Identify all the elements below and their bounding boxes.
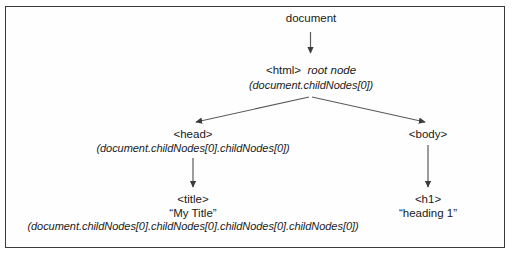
node-head-tag: <head> xyxy=(96,128,289,142)
edge-html-to-body xyxy=(312,97,425,122)
node-title: <title> “My Title” (document.childNodes[… xyxy=(27,193,358,233)
node-h1: <h1> “heading 1” xyxy=(399,193,457,220)
edge-html-to-head xyxy=(196,97,309,122)
dom-tree-diagram: document <html> root node (document.chil… xyxy=(0,0,515,266)
node-head: <head> (document.childNodes[0].childNode… xyxy=(96,128,289,155)
node-html-tag: <html> xyxy=(266,64,301,76)
node-head-path: (document.childNodes[0].childNodes[0]) xyxy=(96,142,289,155)
node-html-path: (document.childNodes[0]) xyxy=(249,79,373,92)
node-body: <body> xyxy=(409,128,447,142)
node-document: document xyxy=(286,12,337,26)
node-html-headline: <html> root node xyxy=(249,60,373,79)
node-title-tag: <title> xyxy=(27,193,358,207)
node-title-value: “My Title” xyxy=(27,207,358,221)
node-html: <html> root node (document.childNodes[0]… xyxy=(249,60,373,92)
node-title-path: (document.childNodes[0].childNodes[0].ch… xyxy=(27,220,358,233)
node-h1-value: “heading 1” xyxy=(399,207,457,221)
node-h1-tag: <h1> xyxy=(399,193,457,207)
node-html-note-text: root node xyxy=(307,64,356,76)
node-document-label: document xyxy=(286,12,337,26)
node-body-tag: <body> xyxy=(409,128,447,142)
